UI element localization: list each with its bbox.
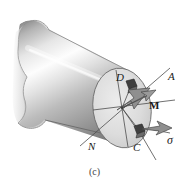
figure-container: D A N C M σ (c) — [0, 0, 189, 187]
label-moment-vector: M — [149, 100, 159, 111]
label-point-d: D — [116, 72, 124, 83]
figure-caption: (c) — [0, 166, 189, 177]
face-center-dot — [121, 107, 123, 109]
label-point-a: A — [168, 71, 175, 82]
shaft-torsion-diagram — [0, 0, 189, 187]
label-stress-sigma: σ — [167, 134, 173, 146]
label-point-n: N — [88, 141, 95, 152]
label-point-c: C — [133, 142, 140, 153]
